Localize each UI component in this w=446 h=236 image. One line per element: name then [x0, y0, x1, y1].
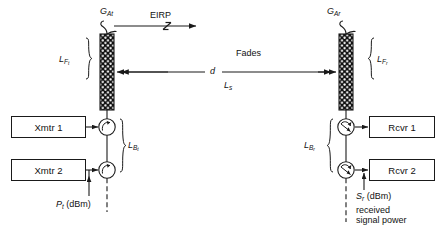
rx-circulator-1 [338, 119, 354, 135]
label-path-loss: Ls [224, 80, 232, 93]
block-rcvr-1: Rcvr 1 [369, 116, 435, 138]
tx-branching-brace [120, 119, 126, 172]
label-fades: Fades [236, 48, 261, 58]
label-rx-power-line2: received [356, 205, 407, 216]
rx-branching-brace [327, 119, 333, 172]
tx-circulator-1 [99, 119, 115, 135]
label-rx-power: Sr (dBm) received signal power [356, 191, 407, 226]
label-branching-loss-rx: LBr [304, 140, 315, 154]
label-distance: d [210, 66, 215, 76]
eirp-arrow [114, 23, 196, 30]
label-branching-loss-tx: LBt [128, 140, 139, 154]
label-gain-rx: GAr [327, 6, 341, 19]
label-gain-tx: GAt [100, 6, 113, 19]
label-rx-power-line3: signal power [356, 215, 407, 226]
label-feeder-loss-tx: LFt [59, 54, 69, 68]
block-xmtr-1: Xmtr 1 [11, 116, 86, 138]
label-tx-power: Pt (dBm) [56, 199, 91, 212]
tx-feeder-brace [86, 38, 92, 79]
tx-circulator-2 [99, 162, 115, 178]
label-eirp: EIRP [150, 10, 171, 20]
label-rx-power-line1: Sr (dBm) [356, 191, 407, 205]
rx-circulator-2 [338, 162, 354, 178]
rx-feeder-brace [368, 38, 374, 79]
transmit-antenna [100, 21, 117, 125]
block-xmtr-2: Xmtr 2 [11, 159, 86, 181]
receive-antenna [339, 21, 356, 125]
label-feeder-loss-rx: LFr [377, 54, 388, 68]
block-rcvr-2: Rcvr 2 [369, 159, 435, 181]
